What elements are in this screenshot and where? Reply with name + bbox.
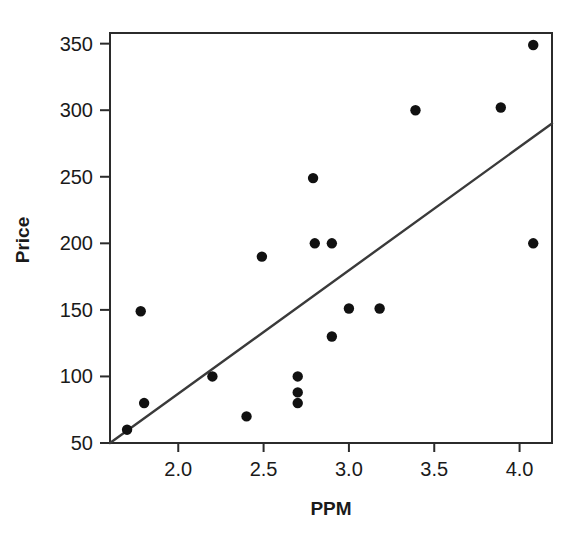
x-tick-label: 2.5: [250, 458, 278, 480]
data-point: [496, 102, 506, 112]
y-tick-label: 50: [71, 432, 93, 454]
data-point: [528, 238, 538, 248]
data-point: [293, 371, 303, 381]
scatter-plot-figure: 2.02.53.03.54.0 50100150200250300350 PPM…: [0, 0, 574, 534]
y-tick-label: 100: [60, 365, 93, 387]
data-point: [410, 105, 420, 115]
y-axis-title: Price: [12, 217, 33, 263]
y-tick-label: 300: [60, 99, 93, 121]
data-point: [136, 306, 146, 316]
data-point: [528, 40, 538, 50]
x-tick-label: 2.0: [164, 458, 192, 480]
data-point: [327, 238, 337, 248]
data-point: [241, 411, 251, 421]
data-point: [122, 424, 132, 434]
data-point: [207, 371, 217, 381]
y-tick-label: 200: [60, 232, 93, 254]
data-point: [374, 303, 384, 313]
x-tick-label: 3.0: [335, 458, 363, 480]
data-point: [139, 398, 149, 408]
data-point: [293, 398, 303, 408]
plot-canvas: 2.02.53.03.54.0 50100150200250300350 PPM…: [0, 0, 574, 534]
x-axis-title: PPM: [310, 498, 351, 519]
y-tick-label: 250: [60, 166, 93, 188]
data-point: [344, 303, 354, 313]
y-tick-label: 150: [60, 299, 93, 321]
y-tick-label: 350: [60, 33, 93, 55]
x-tick-label: 3.5: [420, 458, 448, 480]
data-point: [257, 251, 267, 261]
x-tick-label: 4.0: [506, 458, 534, 480]
data-point: [293, 387, 303, 397]
data-point: [310, 238, 320, 248]
data-point: [327, 331, 337, 341]
data-point: [308, 173, 318, 183]
